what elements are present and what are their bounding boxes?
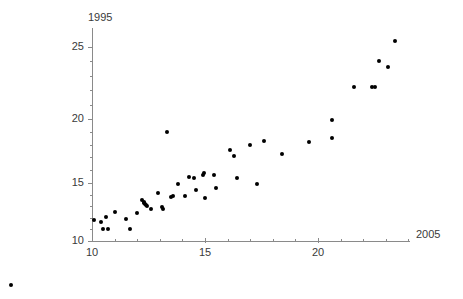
y-tick-minor [90,157,93,158]
y-tick-minor [90,76,93,77]
y-tick-minor [90,105,93,106]
x-tick-minor [295,239,296,242]
data-point [113,210,117,214]
x-tick-minor [115,239,116,242]
x-tick-minor [363,239,364,242]
data-point [187,175,191,179]
y-tick-major [88,47,93,48]
x-tick-minor [408,239,409,242]
data-point [124,217,128,221]
data-point [128,227,132,231]
x-tick-label: 20 [303,246,333,258]
data-point [330,136,334,140]
data-point [99,220,103,224]
data-point [104,215,108,219]
x-tick-minor [160,239,161,242]
x-tick-minor [341,239,342,242]
y-tick-major [88,183,93,184]
data-point [248,143,252,147]
data-point [262,139,266,143]
data-point [92,218,96,222]
y-axis-title: 1995 [88,11,112,23]
x-tick-minor [273,239,274,242]
y-tick-minor [90,170,93,171]
x-tick-minor [182,239,183,242]
x-tick-minor [386,239,387,242]
y-tick-minor [90,90,93,91]
data-point [161,207,165,211]
y-tick-label: 10 [56,234,84,246]
data-point [183,194,187,198]
x-tick-major [318,238,319,243]
data-point [194,188,198,192]
data-point [149,207,153,211]
data-point [330,118,334,122]
scatter-plot-figure: 1995 2005 10152025152010 [0,0,463,299]
x-tick-minor [228,239,229,242]
data-point [373,85,377,89]
data-point [203,196,207,200]
data-point [228,148,232,152]
y-tick-minor [90,132,93,133]
data-point [212,173,216,177]
data-point [280,152,284,156]
data-point [171,194,175,198]
y-tick-major [88,119,93,120]
data-point [352,85,356,89]
y-tick-label: 15 [56,176,84,188]
data-point [393,39,397,43]
data-point [232,154,236,158]
y-tick-minor [90,145,93,146]
y-tick-minor [90,61,93,62]
x-axis-title: 2005 [416,228,440,240]
data-point [386,65,390,69]
data-point [156,191,160,195]
y-tick-label: 25 [56,40,84,52]
x-tick-minor [137,239,138,242]
data-point [176,182,180,186]
data-point [135,211,139,215]
data-point [255,182,259,186]
x-tick-major [205,238,206,243]
data-point [235,176,239,180]
y-tick-minor [90,206,93,207]
data-point [106,227,110,231]
data-point [307,140,311,144]
data-point [192,176,196,180]
y-tick-major [88,241,93,242]
outlier-data-point [9,283,13,287]
data-point [202,171,206,175]
y-tick-minor [90,229,93,230]
data-point [101,227,105,231]
x-origin-tick-label: 10 [77,246,107,258]
x-tick-minor [250,239,251,242]
y-tick-minor [90,195,93,196]
x-tick-label: 15 [190,246,220,258]
data-point [165,130,169,134]
data-point [377,59,381,63]
data-point [214,186,218,190]
y-tick-label: 20 [56,112,84,124]
